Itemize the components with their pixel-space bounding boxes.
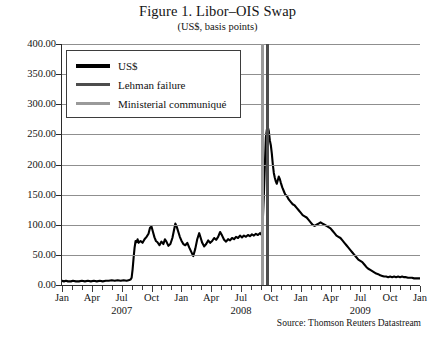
x-axis-tick-mark (191, 286, 192, 290)
x-axis-tick-mark (201, 286, 202, 290)
y-axis-tick-label: 200.00 (4, 160, 56, 170)
legend-item[interactable]: Lehman failure (67, 75, 240, 94)
x-axis-tick-mark (102, 286, 103, 290)
x-axis-tick-mark (340, 286, 341, 290)
chart-legend: US$Lehman failureMinisterial communiqué (66, 50, 241, 118)
y-axis-tick-label: 100.00 (4, 220, 56, 230)
y-axis-tick-label: 250.00 (4, 129, 56, 139)
gridline (62, 44, 420, 45)
source-note: Source: Thomson Reuters Datastream (277, 318, 421, 328)
x-axis-tick-mark (231, 286, 232, 290)
chart-subtitle: (US$, basis points) (0, 21, 435, 32)
y-axis-tick-label: 350.00 (4, 69, 56, 79)
x-axis-tick-mark (370, 286, 371, 290)
event-line-lehman-failure (266, 44, 269, 285)
y-axis-tick-label: 400.00 (4, 39, 56, 49)
x-axis-year-label: 2009 (335, 305, 385, 316)
x-axis-tick-mark (132, 286, 133, 290)
legend-item[interactable]: Ministerial communiqué (67, 94, 240, 113)
x-axis-tick-mark (400, 286, 401, 290)
x-axis-tick-mark (380, 286, 381, 290)
y-axis-labels: 400.00350.00300.00250.00200.00150.00100.… (0, 0, 56, 341)
y-axis-tick-label: 0.00 (4, 280, 56, 290)
gridline (62, 165, 420, 166)
x-axis-tick-mark (221, 286, 222, 290)
x-axis-tick-mark (321, 286, 322, 290)
gridline (62, 225, 420, 226)
gridline (62, 195, 420, 196)
x-axis-tick-mark (410, 286, 411, 290)
x-axis-year-label: 2007 (97, 305, 147, 316)
x-axis-tick-mark (112, 286, 113, 290)
y-axis-tick-label: 300.00 (4, 99, 56, 109)
series-path (62, 127, 420, 281)
y-axis-tick-label: 150.00 (4, 190, 56, 200)
legend-item-label: US$ (118, 60, 138, 72)
y-axis-tick-label: 50.00 (4, 250, 56, 260)
legend-item-label: Lehman failure (118, 79, 186, 91)
event-line-ministerial-communiqu (261, 44, 264, 285)
x-axis-tick-mark (281, 286, 282, 290)
x-axis-tick-mark (261, 286, 262, 290)
x-axis-tick-mark (311, 286, 312, 290)
legend-swatch-icon (76, 83, 110, 86)
x-axis-tick-mark (350, 286, 351, 290)
legend-swatch-icon (76, 64, 110, 68)
x-axis-tick-mark (161, 286, 162, 290)
gridline (62, 255, 420, 256)
x-axis-tick-label: Jan (402, 292, 435, 303)
legend-item[interactable]: US$ (67, 56, 240, 75)
legend-item-label: Ministerial communiqué (118, 98, 226, 110)
page-title: Figure 1. Libor–OIS Swap (0, 3, 435, 20)
legend-swatch-icon (76, 102, 110, 105)
x-axis-tick-mark (171, 286, 172, 290)
x-axis-tick-mark (82, 286, 83, 290)
x-axis-tick-mark (72, 286, 73, 290)
x-axis-tick-mark (251, 286, 252, 290)
figure-container: Figure 1. Libor–OIS Swap (US$, basis poi… (0, 0, 435, 341)
x-axis-tick-mark (142, 286, 143, 290)
x-axis-tick-mark (291, 286, 292, 290)
x-axis-year-label: 2008 (216, 305, 266, 316)
gridline (62, 134, 420, 135)
